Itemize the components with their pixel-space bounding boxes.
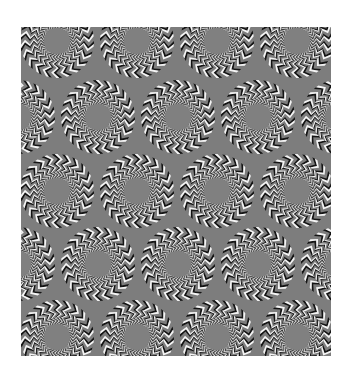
illusion-disc	[221, 80, 295, 154]
illusion-disc	[221, 227, 295, 301]
illusion-disc	[141, 227, 215, 301]
illusion-disc	[260, 154, 331, 228]
illusion-disc	[100, 154, 174, 228]
optical-illusion-image	[21, 27, 331, 356]
illusion-disc	[21, 154, 94, 228]
rotating-circles-pattern	[21, 27, 331, 356]
illusion-disc	[180, 154, 254, 228]
illusion-disc	[61, 227, 135, 301]
illusion-disc	[141, 80, 215, 154]
illusion-disc	[61, 80, 135, 154]
